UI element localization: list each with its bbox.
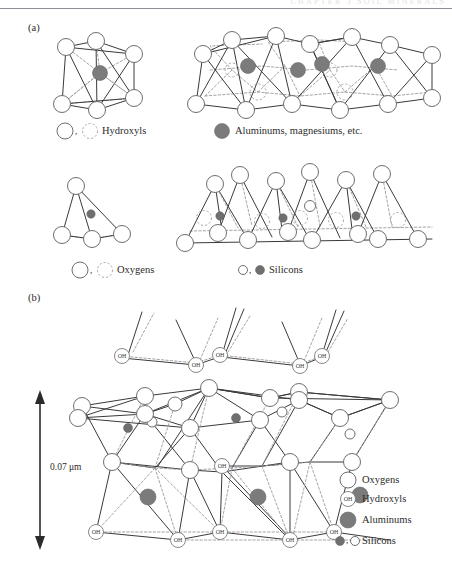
legend-separator-silicons: , <box>249 265 251 275</box>
hydroxyl-node <box>238 102 255 119</box>
oxygen-node <box>282 454 299 471</box>
dimension-arrow <box>35 390 45 550</box>
oxygen-node <box>262 390 279 407</box>
svg-text:OH: OH <box>318 353 327 359</box>
legend-marker-oxygens-b <box>340 472 356 488</box>
oxygen-node <box>268 173 285 190</box>
oxygen-node <box>70 410 87 427</box>
oxygen-node <box>201 380 218 397</box>
svg-text:OH: OH <box>174 537 183 543</box>
legend-separator-hydroxyls: , <box>75 126 77 136</box>
hydroxyl-node <box>268 28 285 45</box>
legend-label-silicons: Silicons <box>269 264 303 275</box>
hydroxyl-node <box>126 90 143 107</box>
octahedral-sheet <box>188 28 441 119</box>
oxygen-node <box>374 166 391 183</box>
oxygen-node <box>104 454 121 471</box>
oxygen-node <box>232 167 249 184</box>
aluminum-node <box>315 57 330 72</box>
legend-marker-silicons <box>239 266 265 275</box>
oxygen-node <box>344 454 361 471</box>
svg-text:OH: OH <box>118 353 127 359</box>
svg-text:OH: OH <box>218 463 227 469</box>
legend-marker-hydroxyls <box>57 123 98 139</box>
silicon-node <box>232 414 241 423</box>
oxygen-node-hidden <box>329 213 344 228</box>
legend-label-hydroxyls-b: Hydroxyls <box>362 493 406 504</box>
hydroxyl-node <box>302 36 319 53</box>
hydroxyl-oh-node: OH <box>315 349 330 364</box>
aluminum-node <box>93 66 108 81</box>
legend-separator-silicons-b: , <box>346 535 348 545</box>
panel-b-label: (b) <box>28 292 40 303</box>
hydroxyl-oh-node: OH <box>293 359 308 374</box>
oxygen-node-hidden <box>197 211 212 226</box>
oxygen-node <box>302 164 319 181</box>
svg-text:OH: OH <box>192 362 201 368</box>
oxygen-node <box>210 225 227 242</box>
hydroxyl-node <box>382 37 399 54</box>
svg-text:OH: OH <box>344 496 353 502</box>
silicon-node <box>124 424 133 433</box>
svg-text:OH: OH <box>296 363 305 369</box>
oxygen-node <box>280 224 297 241</box>
dimension-label: 0.07 μm <box>50 462 81 472</box>
hydroxyl-oh-node: OH <box>115 349 130 364</box>
oxygen-node <box>207 176 224 193</box>
oxygen-node <box>68 178 85 195</box>
silicon-node <box>279 214 287 222</box>
oxygen-node <box>382 392 399 409</box>
hydroxyl-oh-node: OH <box>89 525 104 540</box>
oxygen-node <box>114 226 131 243</box>
oxygen-node <box>182 462 199 479</box>
hydroxyl-oh-node: OH <box>215 459 230 474</box>
oxygen-node <box>240 232 257 249</box>
hydroxyl-oh-node: OH <box>213 525 228 540</box>
legend-label-hydroxyls: Hydroxyls <box>102 125 146 136</box>
hydroxyl-node <box>89 102 106 119</box>
legend-label-oxygens-b: Oxygens <box>362 474 399 485</box>
aluminum-node <box>250 489 266 505</box>
legend-marker-oxygens <box>72 262 113 278</box>
clay-mineral-structure-diagram: OH OH OH OH OH <box>0 0 452 574</box>
legend-marker-aluminums-b <box>340 512 356 528</box>
oxygen-node <box>177 235 194 252</box>
octahedron-unit <box>54 33 143 119</box>
oxygen-node <box>182 420 199 437</box>
hydroxyl-oh-node: OH <box>283 533 298 548</box>
tetrahedron-unit <box>54 178 131 248</box>
oxygen-node <box>168 397 182 411</box>
hydroxyl-oh-node: OH <box>213 348 228 363</box>
oxygen-node <box>410 231 427 248</box>
oxygen-node <box>84 231 101 248</box>
oxygen-node <box>304 232 321 249</box>
oxygen-node <box>291 392 308 409</box>
legend-separator-oxygens: , <box>90 265 92 275</box>
hydroxyl-node <box>54 96 71 113</box>
silicon-node <box>352 212 360 220</box>
oxygen-node-small <box>345 429 355 439</box>
legend-marker-hydroxyls-b: OH <box>341 492 356 507</box>
legend-marker-aluminums <box>215 124 230 139</box>
oxygen-node <box>137 388 154 405</box>
legend-label-aluminums-magnesiums: Aluminums, magnesiums, etc. <box>235 125 362 136</box>
hydroxyl-node <box>188 96 205 113</box>
figure-page: CHAPTER 3 SOIL MINERALS <box>0 0 452 574</box>
hydroxyl-oh-node: OH <box>171 533 186 548</box>
svg-text:OH: OH <box>286 537 295 543</box>
svg-text:OH: OH <box>330 529 339 535</box>
oxygen-node <box>252 412 269 429</box>
hydroxyl-node <box>88 33 105 50</box>
oxygen-node <box>370 231 387 248</box>
hydroxyl-node <box>284 96 301 113</box>
hydroxyl-node <box>344 29 361 46</box>
oxygen-node <box>332 410 349 427</box>
hydroxyl-node <box>380 96 397 113</box>
silicon-node <box>216 212 224 220</box>
hydroxyl-oh-node: OH <box>189 358 204 373</box>
oxygen-node <box>137 406 154 423</box>
aluminum-node <box>371 59 386 74</box>
legend-label-aluminums-b: Aluminums <box>362 514 412 525</box>
hydroxyl-node <box>126 46 143 63</box>
oxygen-node <box>338 172 355 189</box>
